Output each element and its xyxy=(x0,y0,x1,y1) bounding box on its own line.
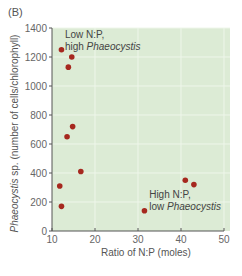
x-axis-title: Ratio of N:P (moles) xyxy=(101,247,191,258)
x-tick-label: 30 xyxy=(132,234,144,245)
x-tick-label: 10 xyxy=(46,234,58,245)
data-point xyxy=(142,208,148,214)
y-tick-label: 1000 xyxy=(25,81,48,92)
x-tick-label: 50 xyxy=(218,234,230,245)
data-point xyxy=(66,64,72,70)
annotation-line-1: Low N:P, xyxy=(65,29,104,40)
y-tick-label: 1400 xyxy=(25,23,48,34)
data-point xyxy=(57,183,63,189)
annotation-line-2: high Phaeocystis xyxy=(65,41,141,52)
data-point xyxy=(191,182,197,188)
annotation-line-2: low Phaeocystis xyxy=(149,201,221,212)
data-point xyxy=(70,124,76,130)
data-point xyxy=(183,177,189,183)
y-tick-label: 400 xyxy=(30,168,47,179)
data-point xyxy=(64,134,70,140)
scatter-chart: 02004006008001000120014001020304050 Low … xyxy=(0,0,242,276)
x-tick-label: 20 xyxy=(89,234,101,245)
data-point xyxy=(69,54,75,60)
y-tick-label: 600 xyxy=(30,139,47,150)
y-tick-label: 200 xyxy=(30,197,47,208)
data-point xyxy=(78,169,84,175)
data-point xyxy=(59,204,65,210)
x-tick-label: 40 xyxy=(175,234,187,245)
annotation-line-1: High N:P, xyxy=(149,189,191,200)
data-point xyxy=(59,47,65,53)
y-tick-label: 800 xyxy=(30,110,47,121)
y-axis-title: Phaeocystis sp. (number of cells/chlorop… xyxy=(9,35,20,233)
y-tick-label: 1200 xyxy=(25,52,48,63)
